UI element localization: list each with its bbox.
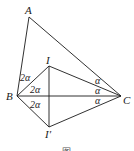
geometry-diagram: A I B C I′ 2α 2α 2α α α α 图 (0, 0, 134, 151)
angle-label-b-top: 2α (20, 72, 31, 83)
segment-ic (49, 66, 121, 96)
figure-caption: 图 (62, 147, 71, 151)
segment-i-prime-c (49, 96, 121, 127)
angle-label-b-mid: 2α (30, 84, 41, 95)
angle-label-c-bottom: α (95, 95, 101, 106)
point-label-i-prime: I′ (44, 128, 52, 140)
point-label-b: B (6, 90, 13, 102)
angle-label-b-bottom: 2α (30, 99, 41, 110)
segment-ac (29, 17, 121, 96)
point-label-i: I (45, 54, 51, 66)
segment-ab (17, 17, 29, 96)
point-label-a: A (24, 4, 32, 16)
point-label-c: C (123, 94, 131, 106)
